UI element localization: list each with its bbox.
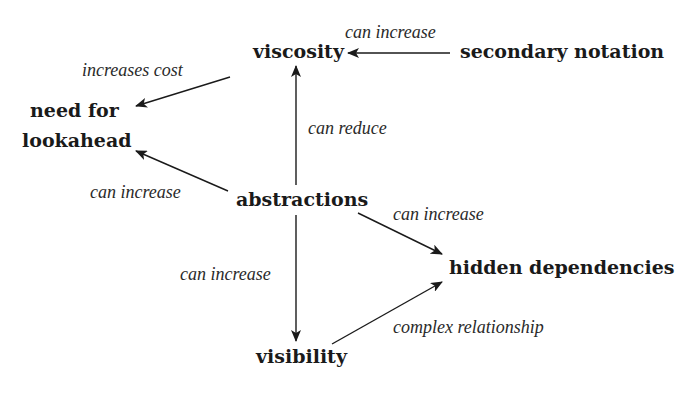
label-abstractions-to-hidden: can increase bbox=[393, 205, 484, 223]
label-abstractions-to-visibility: can increase bbox=[180, 265, 271, 283]
node-visibility: visibility bbox=[256, 347, 347, 366]
node-viscosity: viscosity bbox=[253, 42, 344, 61]
label-secondary-to-viscosity: can increase bbox=[345, 23, 436, 41]
node-need-for-lookahead-line2: lookahead bbox=[22, 131, 132, 150]
node-hidden-dependencies: hidden dependencies bbox=[449, 258, 674, 277]
node-secondary-notation: secondary notation bbox=[460, 42, 664, 61]
label-abstractions-to-lookahead: can increase bbox=[90, 183, 181, 201]
node-need-for-lookahead-line1: need for bbox=[30, 101, 119, 120]
label-visibility-to-hidden: complex relationship bbox=[393, 318, 544, 336]
cognitive-dimensions-diagram: viscosity secondary notation need for lo… bbox=[0, 0, 683, 396]
node-abstractions: abstractions bbox=[236, 190, 368, 209]
label-abstractions-to-viscosity: can reduce bbox=[308, 119, 387, 137]
arrow-viscosity-to-lookahead bbox=[136, 77, 230, 106]
label-viscosity-to-lookahead: increases cost bbox=[82, 61, 183, 79]
